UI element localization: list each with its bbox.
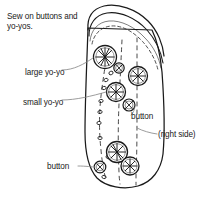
label-button-right: button — [131, 112, 153, 122]
label-button-left: button — [47, 162, 69, 172]
large-yo-yo — [94, 46, 117, 69]
button-middle — [123, 99, 135, 111]
button-upper — [114, 63, 124, 73]
label-small-yoyo: small yo-yo — [23, 98, 63, 108]
label-right-side: (right side) — [158, 130, 195, 140]
button-lower — [94, 161, 106, 173]
label-large-yoyo: large yo-yo — [25, 68, 64, 78]
small-yo-yo — [107, 83, 126, 102]
yo-yo-lower-right — [121, 157, 139, 175]
heading-text: Sew on buttons and yo-yos. — [7, 12, 85, 32]
illustration-root: Sew on buttons and yo-yos. large yo-yo s… — [0, 0, 207, 197]
yo-yo-upper-right — [129, 67, 148, 86]
